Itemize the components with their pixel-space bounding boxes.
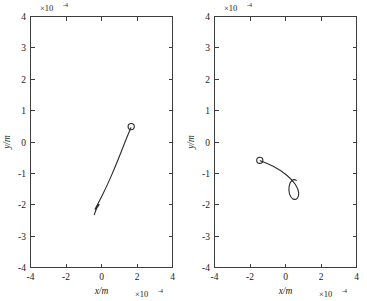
start-marker-left [128, 124, 134, 130]
data-series-left [94, 124, 134, 215]
y-multiplier-exponent: -4 [247, 2, 252, 8]
x-tick-label: 2 [319, 272, 324, 282]
y-tick-label: 3 [21, 43, 26, 53]
y-tick-label: 2 [205, 75, 210, 85]
x-multiplier-base: ×10 [135, 289, 148, 299]
plot-svg-left: 4 3 2 1 0 -1 -2 -3 -4 -4 -2 0 2 4 x/m y/… [0, 0, 183, 301]
tick-marks-right [215, 17, 357, 268]
x-tick-label: 2 [135, 272, 140, 282]
x-tick-label: -4 [211, 272, 219, 282]
y-tick-label: -1 [18, 169, 26, 179]
x-tick-label: -2 [62, 272, 70, 282]
axes-frame-left [31, 17, 173, 268]
x-tick-label: -2 [246, 272, 254, 282]
y-tick-label: 1 [21, 106, 26, 116]
x-multiplier-exponent: -4 [158, 288, 163, 294]
chart-panel-right: 4 3 2 1 0 -1 -2 -3 -4 -4 -2 0 2 4 x/m y/… [184, 0, 367, 301]
x-tick-label: 4 [354, 272, 359, 282]
y-tick-label: 4 [205, 12, 210, 22]
x-multiplier-right: ×10 -4 [319, 288, 347, 299]
y-tick-labels-right: 4 3 2 1 0 -1 -2 -3 -4 [202, 12, 210, 273]
y-tick-label: -2 [18, 200, 26, 210]
y-tick-label: -4 [18, 263, 26, 273]
axes-frame-right [215, 17, 357, 268]
y-tick-label: 0 [21, 138, 26, 148]
y-multiplier-base: ×10 [224, 3, 237, 13]
y-tick-label: -3 [18, 232, 26, 242]
figure-container: 4 3 2 1 0 -1 -2 -3 -4 -4 -2 0 2 4 x/m y/… [0, 0, 367, 301]
data-series-right [257, 157, 299, 199]
x-tick-label: 0 [99, 272, 104, 282]
x-tick-labels-left: -4 -2 0 2 4 [27, 272, 176, 282]
plot-svg-right: 4 3 2 1 0 -1 -2 -3 -4 -4 -2 0 2 4 x/m y/… [184, 0, 367, 301]
y-tick-labels-left: 4 3 2 1 0 -1 -2 -3 -4 [18, 12, 26, 273]
y-tick-label: -1 [202, 169, 210, 179]
y-tick-label: -4 [202, 263, 210, 273]
y-multiplier-exponent: -4 [63, 2, 68, 8]
y-axis-label-right: y/m [186, 135, 196, 150]
x-multiplier-exponent: -4 [342, 288, 347, 294]
start-marker-right [257, 157, 263, 163]
trajectory-curve-left [94, 128, 131, 215]
y-tick-label: 1 [205, 106, 210, 116]
x-multiplier-base: ×10 [319, 289, 332, 299]
y-tick-label: 4 [21, 12, 26, 22]
x-tick-labels-right: -4 -2 0 2 4 [211, 272, 360, 282]
x-tick-label: 4 [170, 272, 175, 282]
chart-panel-left: 4 3 2 1 0 -1 -2 -3 -4 -4 -2 0 2 4 x/m y/… [0, 0, 183, 301]
y-tick-label: 0 [205, 138, 210, 148]
y-tick-label: -2 [202, 200, 210, 210]
y-axis-label-left: y/m [2, 135, 12, 150]
y-multiplier-left: ×10 -4 [40, 2, 68, 13]
y-multiplier-right: ×10 -4 [224, 2, 252, 13]
x-axis-label-right: x/m [278, 286, 293, 296]
y-tick-label: 3 [205, 43, 210, 53]
x-multiplier-left: ×10 -4 [135, 288, 163, 299]
tick-marks-left [31, 17, 173, 268]
x-tick-label: -4 [27, 272, 35, 282]
trajectory-curve-right [260, 161, 299, 200]
x-tick-label: 0 [283, 272, 288, 282]
y-tick-label: 2 [21, 75, 26, 85]
y-multiplier-base: ×10 [40, 3, 53, 13]
y-tick-label: -3 [202, 232, 210, 242]
x-axis-label-left: x/m [94, 286, 109, 296]
